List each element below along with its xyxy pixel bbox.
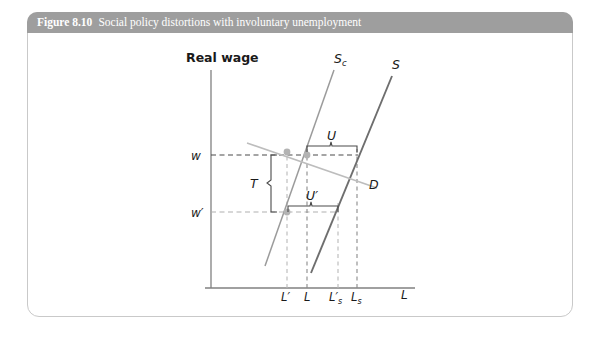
x-tick-label-L-s-subscript: s	[357, 297, 361, 306]
x-tick-label-L-prime-s-subscript: s	[338, 297, 342, 306]
y-axis-title: Real wage	[186, 50, 259, 65]
annotation-U-prime-text: U	[306, 188, 315, 203]
curve-label-supply-constrained-subscript: c	[342, 58, 347, 68]
x-tick-label-L: L	[304, 290, 310, 304]
figure-plot: Real wage L Sc S D U U′ T w w′ L′ L L′s	[0, 0, 601, 337]
annotation-U-prime-mark: ′	[315, 188, 318, 203]
annotation-T: T	[250, 176, 259, 191]
y-tick-label-w: w	[191, 149, 201, 163]
curve-label-supply-constrained: Sc	[334, 51, 347, 68]
curve-label-supply-constrained-text: S	[334, 51, 342, 66]
bracket-U	[307, 142, 357, 152]
curve-supply	[311, 76, 392, 273]
curve-supply-constrained	[265, 70, 334, 266]
x-tick-label-L-prime: L′	[281, 290, 290, 304]
x-axis-title: L	[401, 288, 408, 302]
y-tick-label-w-prime-mark: ′	[201, 206, 204, 220]
annotation-U: U	[327, 128, 336, 143]
x-tick-label-L-prime-mark: ′	[287, 290, 290, 304]
bracket-U-prime	[288, 202, 338, 212]
curve-label-supply: S	[392, 57, 400, 72]
x-tick-label-L-prime-s: L′s	[329, 290, 342, 306]
point-constrained-supply-at-w	[284, 149, 291, 156]
bracket-T	[267, 155, 277, 212]
curve-label-demand: D	[369, 177, 379, 192]
y-tick-label-w-prime: w′	[191, 206, 204, 220]
x-tick-label-L-s: Ls	[351, 290, 362, 306]
point-equilibrium-at-w	[304, 152, 311, 159]
point-constrained-supply-at-w-prime	[284, 209, 291, 216]
y-tick-label-w-prime-text: w	[191, 206, 201, 220]
annotation-U-prime: U′	[306, 188, 318, 203]
